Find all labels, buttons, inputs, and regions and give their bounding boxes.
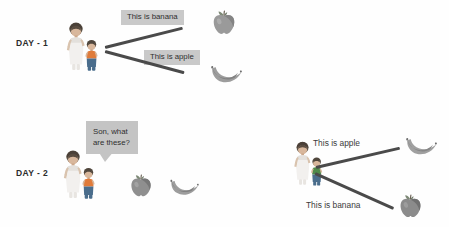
mother-and-child-icon (60, 20, 104, 72)
banana-icon (404, 134, 440, 160)
apple-icon (126, 172, 156, 202)
comic-stage: DAY - 1 (0, 0, 449, 227)
day2-answer-this-is-banana: This is banana (306, 200, 360, 210)
day-1-label: DAY - 1 (16, 38, 48, 48)
mother-and-child-icon (57, 148, 101, 200)
banana-icon (168, 176, 202, 200)
day1-caption-this-is-banana: This is banana (121, 10, 184, 25)
apple-icon (208, 8, 240, 40)
day-2-label: DAY - 2 (16, 168, 48, 178)
apple-icon (395, 192, 426, 223)
banana-icon (209, 62, 245, 88)
day2-answer-this-is-apple: This is apple (313, 138, 360, 148)
day1-pointer-line-to-apple (105, 27, 183, 49)
day2-pointer-line-to-banana (316, 147, 400, 169)
